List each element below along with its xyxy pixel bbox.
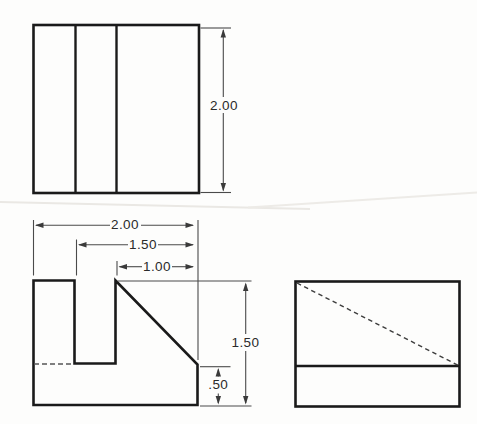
arrowhead-right bbox=[186, 242, 195, 247]
arrowhead-up bbox=[243, 283, 248, 292]
side-view-outline bbox=[296, 282, 460, 407]
arrowhead-left bbox=[78, 242, 87, 247]
top-view-height-label: 2.00 bbox=[210, 99, 238, 113]
drawing-canvas: 2.00 2.00 1.50 1.00 1.50 .50 bbox=[0, 0, 477, 424]
front-view-width-label: 2.00 bbox=[111, 219, 139, 233]
side-view-hidden-edge bbox=[297, 283, 459, 366]
arrowhead-right bbox=[186, 264, 195, 269]
scan-crease-lines bbox=[0, 193, 477, 210]
front-view-step-width-label: 1.50 bbox=[129, 238, 157, 252]
crease-line-right bbox=[248, 193, 477, 208]
arrowhead-right bbox=[186, 223, 195, 228]
arrowhead-left bbox=[35, 223, 44, 228]
arrowhead-up bbox=[221, 29, 226, 38]
front-view-outline bbox=[34, 281, 198, 406]
arrowhead-down bbox=[243, 396, 248, 405]
arrowhead-down bbox=[221, 183, 226, 192]
front-view-base-height-label: .50 bbox=[208, 378, 228, 392]
drawing-linework bbox=[0, 0, 477, 424]
arrowhead-down bbox=[216, 396, 221, 405]
front-view-slope-width-label: 1.00 bbox=[143, 260, 171, 274]
side-view bbox=[296, 282, 460, 407]
arrowhead-up bbox=[216, 368, 221, 377]
top-view bbox=[34, 25, 200, 193]
front-view bbox=[34, 281, 198, 406]
arrowhead-left bbox=[119, 264, 128, 269]
front-view-height-label: 1.50 bbox=[232, 336, 260, 350]
